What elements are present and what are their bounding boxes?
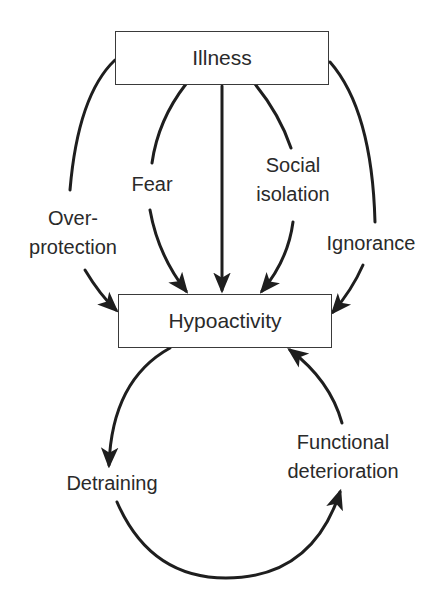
- node-hypoactivity-label: Hypoactivity: [168, 309, 281, 333]
- label-detraining-text: Detraining: [56, 469, 168, 498]
- node-illness: Illness: [115, 31, 329, 85]
- label-functional-deterioration-line1: Functional: [276, 428, 410, 457]
- label-over-protection-line2: protection: [18, 233, 128, 262]
- label-functional-deterioration: Functional deterioration: [276, 428, 410, 486]
- arrow-detraining-to-deterioration: [117, 492, 340, 578]
- label-social-isolation-line1: Social: [248, 151, 338, 180]
- illness-hypoactivity-diagram: Illness Hypoactivity Over- protection Fe…: [0, 0, 445, 600]
- label-fear-text: Fear: [124, 170, 180, 199]
- node-hypoactivity: Hypoactivity: [118, 294, 332, 348]
- arrow-deterioration-to-hypoactivity: [290, 350, 342, 423]
- label-ignorance: Ignorance: [316, 229, 426, 258]
- node-illness-label: Illness: [192, 46, 252, 70]
- arrow-fear-lower: [150, 210, 186, 291]
- label-social-isolation: Social isolation: [248, 151, 338, 209]
- label-fear: Fear: [124, 170, 180, 199]
- label-over-protection: Over- protection: [18, 204, 128, 262]
- arrow-social-isolation-lower: [262, 222, 293, 291]
- arrow-ignorance-lower: [333, 265, 363, 312]
- arrow-hypoactivity-to-detraining: [109, 348, 170, 465]
- arrow-over-protection-lower: [85, 270, 116, 310]
- arrow-fear-upper: [152, 84, 186, 163]
- arrow-social-isolation-upper: [255, 84, 291, 148]
- label-detraining: Detraining: [56, 469, 168, 498]
- label-ignorance-text: Ignorance: [316, 229, 426, 258]
- label-social-isolation-line2: isolation: [248, 180, 338, 209]
- arrow-over-protection-upper: [70, 60, 115, 190]
- label-functional-deterioration-line2: deterioration: [276, 457, 410, 486]
- label-over-protection-line1: Over-: [18, 204, 128, 233]
